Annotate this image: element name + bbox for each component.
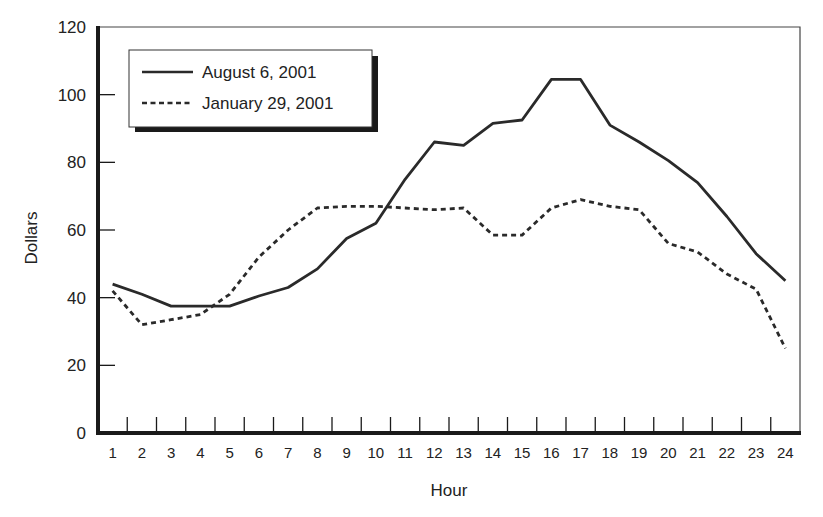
x-tick-label: 9 <box>342 444 350 461</box>
y-tick-label: 80 <box>67 153 86 172</box>
legend: August 6, 2001 January 29, 2001 <box>129 50 378 132</box>
x-tick-label: 14 <box>485 444 502 461</box>
x-tick-label: 12 <box>426 444 443 461</box>
x-tick-label: 16 <box>543 444 560 461</box>
y-axis-ticks: 020406080100120 <box>58 18 115 443</box>
legend-box <box>129 50 372 127</box>
legend-label-august: August 6, 2001 <box>202 63 316 82</box>
x-tick-label: 20 <box>660 444 677 461</box>
y-tick-label: 60 <box>67 221 86 240</box>
y-tick-label: 0 <box>77 424 86 443</box>
x-tick-label: 4 <box>196 444 204 461</box>
x-tick-label: 8 <box>313 444 321 461</box>
x-tick-label: 10 <box>368 444 385 461</box>
x-tick-label: 2 <box>138 444 146 461</box>
x-tick-label: 13 <box>455 444 472 461</box>
x-axis-ticks: 123456789101112131415161718192021222324 <box>108 417 793 461</box>
x-axis-label: Hour <box>431 481 468 500</box>
x-tick-label: 5 <box>225 444 233 461</box>
x-tick-label: 21 <box>689 444 706 461</box>
x-tick-label: 15 <box>514 444 531 461</box>
x-tick-label: 1 <box>108 444 116 461</box>
x-tick-label: 3 <box>167 444 175 461</box>
x-tick-label: 22 <box>719 444 736 461</box>
x-tick-label: 7 <box>284 444 292 461</box>
y-tick-label: 100 <box>58 86 86 105</box>
y-tick-label: 120 <box>58 18 86 37</box>
y-tick-label: 20 <box>67 356 86 375</box>
x-tick-label: 19 <box>631 444 648 461</box>
x-tick-label: 11 <box>397 444 413 461</box>
x-tick-label: 24 <box>777 444 794 461</box>
line-chart: 020406080100120 123456789101112131415161… <box>0 0 823 517</box>
x-tick-label: 6 <box>255 444 263 461</box>
x-tick-label: 17 <box>572 444 589 461</box>
x-tick-label: 18 <box>602 444 619 461</box>
y-axis-label: Dollars <box>22 212 41 265</box>
series-line-january-29-2001 <box>113 200 786 349</box>
legend-label-january: January 29, 2001 <box>202 94 333 113</box>
x-tick-label: 23 <box>748 444 765 461</box>
y-tick-label: 40 <box>67 289 86 308</box>
